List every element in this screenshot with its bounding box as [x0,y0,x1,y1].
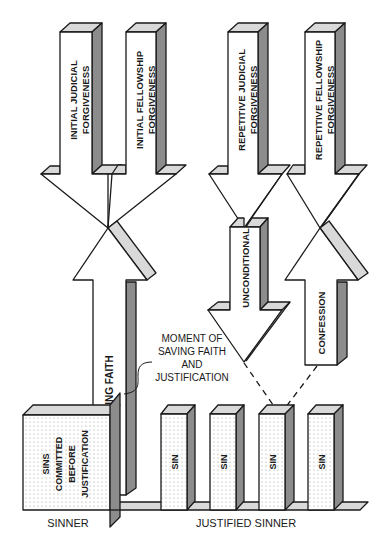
repetitive-fellowship-label-1: REPETITIVE FELLOWSHIP [313,39,324,160]
sin-block-2: SIN [210,405,244,510]
moment-of-saving-faith-callout: MOMENT OF SAVING FAITH AND JUSTIFICATION [124,333,229,394]
sinner-block-line-3: BEFORE [67,445,77,483]
sin-label: SIN [317,454,327,469]
sinner-block-line-4: JUSTIFICATION [80,430,90,497]
sin-label: SIN [219,454,229,469]
sin-label: SIN [268,454,278,469]
justified-sinner-caption: JUSTIFIED SINNER [196,517,296,529]
diagram-canvas: INITIAL JUDICIAL FORGIVENESS INITIAL FEL… [0,0,390,555]
repetitive-fellowship-forgiveness-arrow: REPETITIVE FELLOWSHIP FORGIVENESS [287,23,367,228]
repetitive-judicial-forgiveness-arrow: REPETITIVE JUDICIAL FORGIVENESS [209,23,290,228]
sinner-caption: SINNER [47,517,89,529]
initial-fellowship-label-1: INITIAL FELLOWSHIP [134,50,145,149]
sin-block-4: SIN [308,405,343,510]
confession-label: CONFESSION [316,291,327,354]
sinner-block-line-2: COMMITTED [54,436,64,491]
callout-line-4: JUSTIFICATION [155,372,229,383]
forgiveness-diagram: INITIAL JUDICIAL FORGIVENESS INITIAL FEL… [0,0,390,555]
repetitive-fellowship-label-2: FORGIVENESS [325,66,336,135]
sin-block-3: SIN [259,405,294,510]
sins-before-justification-block: SINS COMMITTED BEFORE JUSTIFICATION [23,405,120,510]
callout-line-1: MOMENT OF [162,333,223,344]
callout-line-2: SAVING FAITH [158,346,226,357]
confession-arrow: CONFESSION [285,221,368,365]
initial-judicial-label-1: INITIAL JUDICIAL [68,60,79,140]
justification-divider-plane [110,393,120,527]
unconditional-label: UNCONDITIONAL [240,228,251,308]
callout-line-3: AND [181,359,202,370]
sin-block-1: SIN [161,405,195,510]
sinner-block-line-1: SINS [41,453,51,474]
initial-fellowship-label-2: FORGIVENESS [146,66,157,135]
initial-fellowship-forgiveness-arrow: INITIAL FELLOWSHIP FORGIVENESS [108,23,186,228]
initial-judicial-label-2: FORGIVENESS [80,66,91,135]
repetitive-judicial-label-1: REPETITIVE JUDICIAL [236,49,247,151]
sin-label: SIN [170,454,180,469]
repetitive-judicial-label-2: FORGIVENESS [248,66,259,135]
